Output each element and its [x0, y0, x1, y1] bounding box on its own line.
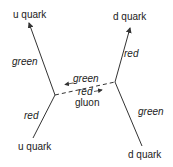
- green-flow-arrow-icon: [65, 83, 73, 85]
- gluon-top-color-label: green: [73, 74, 99, 84]
- gluon-bottom-color-label: red: [78, 87, 92, 97]
- gluon-label: gluon: [75, 98, 99, 108]
- left-lower-color-label: red: [24, 111, 38, 121]
- right-lower-color-label: green: [138, 107, 164, 117]
- red-flow-arrow-icon: [94, 90, 102, 92]
- u-quark-incoming-label: u quark: [18, 142, 51, 152]
- right-upper-color-label: red: [124, 49, 138, 59]
- u-quark-outgoing-label: u quark: [13, 10, 46, 20]
- d-quark-incoming-label: d quark: [128, 150, 161, 160]
- d-quark-outgoing-label: d quark: [113, 12, 146, 22]
- left-upper-color-label: green: [12, 57, 38, 67]
